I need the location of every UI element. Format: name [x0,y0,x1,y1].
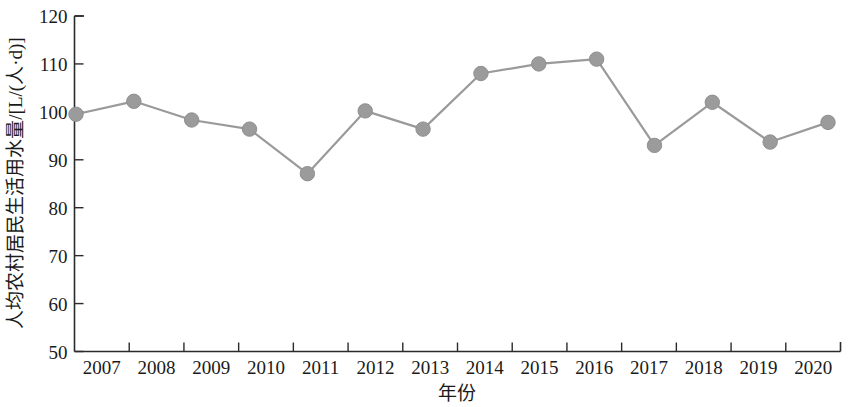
y-tick-label-50: 50 [49,342,68,363]
y-tick-label-60: 60 [49,294,68,315]
y-tick-label-80: 80 [49,198,68,219]
data-point-2020: 2020: 97.8 [821,115,835,129]
data-point-2010: 2010: 96.4 [242,122,256,136]
x-tick-label-2008: 2008 [138,357,176,378]
data-point-2016: 2016: 111 [589,52,603,66]
line-chart: 人均农村居民生活用水量/[L/(人·d)] 年份 506070809010011… [0,0,855,407]
data-point-2013: 2013: 96.4 [416,122,430,136]
x-tick-label-2009: 2009 [192,357,230,378]
data-point-2019: 2019: 93.7 [763,135,777,149]
data-point-2007: 2007: 99.5 [69,107,83,121]
y-tick-label-70: 70 [49,246,68,267]
data-point-2014: 2014: 108 [474,66,488,80]
y-axis-title: 人均农村居民生活用水量/[L/(人·d)] [5,37,27,328]
x-tick-label-2010: 2010 [247,357,285,378]
y-axis-tick-labels: 5060708090100110120 [39,6,68,363]
x-tick-label-2016: 2016 [575,357,613,378]
data-point-2015: 2015: 110 [532,57,546,71]
x-tick-label-2020: 2020 [794,357,832,378]
data-point-2017: 2017: 93 [647,138,661,152]
chart-figure: 人均农村居民生活用水量/[L/(人·d)] 年份 506070809010011… [0,0,855,407]
x-tick-label-2012: 2012 [356,357,394,378]
y-axis-ticks [75,16,84,352]
x-tick-label-2017: 2017 [630,357,668,378]
x-tick-label-2011: 2011 [302,357,339,378]
x-tick-label-2015: 2015 [521,357,559,378]
x-tick-label-2018: 2018 [685,357,723,378]
data-point-2012: 2012: 100.2 [358,104,372,118]
data-point-2009: 2009: 98.3 [184,113,198,127]
x-tick-label-2013: 2013 [411,357,449,378]
x-tick-label-2007: 2007 [83,357,121,378]
data-point-2008: 2008: 102.2 [127,94,141,108]
data-point-2011: 2011: 87.1 [300,166,314,180]
x-tick-label-2019: 2019 [739,357,777,378]
x-tick-label-2014: 2014 [466,357,505,378]
x-axis-tick-labels: 2007200820092010201120122013201420152016… [83,357,832,378]
y-tick-label-90: 90 [49,150,68,171]
x-axis-ticks [129,343,786,352]
y-tick-label-110: 110 [40,54,68,75]
y-tick-label-120: 120 [39,6,68,27]
y-tick-label-100: 100 [39,102,68,123]
data-point-2018: 2018: 102 [705,95,719,109]
x-axis-title: 年份 [438,383,476,404]
